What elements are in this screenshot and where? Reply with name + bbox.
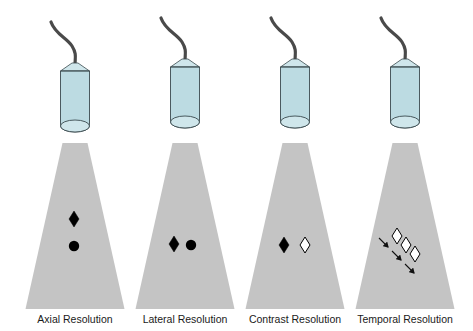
panels-layer <box>26 18 455 309</box>
panel-axial <box>26 22 125 309</box>
panel-contrast <box>246 18 345 309</box>
cable-icon <box>271 18 295 61</box>
transducer-face <box>61 120 90 132</box>
ultrasound-beam <box>26 143 125 309</box>
transducer-face <box>281 116 310 128</box>
target-circle <box>186 240 196 250</box>
ultrasound-beam <box>356 143 455 309</box>
transducer-icon <box>61 63 90 132</box>
transducer-icon <box>281 59 310 128</box>
cable-icon <box>381 18 405 61</box>
label-axial-resolution: Axial Resolution <box>20 313 130 325</box>
panel-temporal <box>356 18 455 309</box>
transducer-cap <box>171 59 200 67</box>
cable-icon <box>161 18 185 61</box>
transducer-icon <box>391 59 420 128</box>
transducer-face <box>391 116 420 128</box>
resolution-diagram <box>0 0 473 331</box>
transducer-cap <box>61 63 90 71</box>
cable-icon <box>51 22 75 65</box>
target-circle <box>69 241 79 251</box>
label-lateral-resolution: Lateral Resolution <box>130 313 240 325</box>
ultrasound-beam <box>136 143 235 309</box>
transducer-cap <box>281 59 310 67</box>
transducer-face <box>171 116 200 128</box>
panel-lateral <box>136 18 235 309</box>
ultrasound-beam <box>246 143 345 309</box>
transducer-cap <box>391 59 420 67</box>
label-contrast-resolution: Contrast Resolution <box>240 313 350 325</box>
transducer-icon <box>171 59 200 128</box>
label-temporal-resolution: Temporal Resolution <box>350 313 460 325</box>
